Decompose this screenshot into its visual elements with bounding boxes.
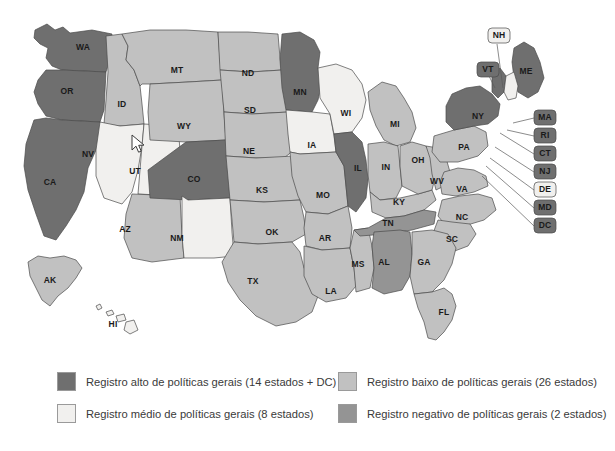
legend-item-baixo: Registro baixo de políticas gerais (26 e… (338, 372, 597, 391)
state-label-me: ME (519, 66, 532, 76)
state-label-wi: WI (341, 108, 352, 118)
legend-swatch-baixo (338, 372, 357, 391)
state-shape-hi[interactable] (96, 304, 102, 310)
state-label-ne: NE (243, 146, 255, 156)
state-label-fl: FL (439, 307, 450, 317)
callout-label-de: DE (539, 184, 551, 194)
state-label-in: IN (382, 162, 391, 172)
callout-label-vt: VT (482, 64, 494, 74)
state-label-sd: SD (244, 105, 256, 115)
callout-nh[interactable]: NH (488, 28, 510, 43)
state-label-mo: MO (316, 190, 330, 200)
callout-nj[interactable]: NJ (534, 164, 556, 179)
state-label-tx: TX (247, 276, 258, 286)
callout-dc[interactable]: DC (534, 218, 556, 233)
callout-label-ma: MA (538, 112, 552, 122)
legend-item-medio: Registro médio de políticas gerais (8 es… (57, 404, 314, 423)
state-shape-ny[interactable] (446, 86, 500, 130)
state-label-ut: UT (129, 166, 141, 176)
state-label-ga: GA (417, 257, 430, 267)
state-shape-nm[interactable] (182, 196, 234, 258)
map-figure: WAORCAIDNVUTAZMTWYCONMNDSDNEKSOKTXMNIAMO… (0, 0, 615, 451)
state-shape-ok[interactable] (230, 200, 306, 244)
state-shape-wa[interactable] (34, 24, 112, 72)
callout-ma[interactable]: MA (534, 110, 556, 125)
state-shape-mn[interactable] (280, 32, 322, 112)
legend-swatch-negativo (338, 404, 357, 423)
state-shape-nd[interactable] (218, 32, 282, 72)
state-label-mi: MI (390, 119, 400, 129)
legend-item-alto: Registro alto de políticas gerais (14 es… (57, 372, 336, 391)
state-label-id: ID (118, 99, 127, 109)
state-label-nv: NV (82, 149, 94, 159)
state-label-co: CO (187, 174, 200, 184)
callout-label-nj: NJ (539, 166, 550, 176)
callout-label-nh: NH (493, 30, 506, 40)
state-label-or: OR (60, 86, 73, 96)
state-label-ok: OK (265, 227, 279, 237)
callout-md[interactable]: MD (534, 200, 556, 215)
callout-label-dc: DC (539, 220, 552, 230)
state-shape-az[interactable] (124, 194, 184, 262)
callout-vt[interactable]: VT (477, 62, 499, 77)
legend-label-medio: Registro médio de políticas gerais (8 es… (86, 408, 314, 420)
state-label-hi: HI (109, 319, 118, 329)
state-label-ca: CA (44, 177, 57, 187)
callout-de[interactable]: DE (534, 182, 556, 197)
leader-line-ct (500, 133, 534, 154)
state-shape-tx[interactable] (222, 242, 318, 326)
state-shape-ne[interactable] (224, 112, 294, 158)
states-layer (24, 24, 544, 340)
state-shape-hi[interactable] (116, 314, 126, 322)
map-legend: Registro alto de políticas gerais (14 es… (0, 358, 615, 451)
callout-ri[interactable]: RI (534, 128, 556, 143)
legend-item-negativo: Registro negativo de políticas gerais (2… (338, 404, 606, 423)
state-label-wa: WA (76, 42, 90, 52)
state-label-sc: SC (446, 234, 458, 244)
state-shape-fl[interactable] (414, 288, 456, 340)
leader-line-ma (513, 118, 534, 123)
state-label-va: VA (456, 184, 468, 194)
legend-label-alto: Registro alto de políticas gerais (14 es… (86, 376, 336, 388)
state-label-mt: MT (171, 65, 184, 75)
state-shape-ca[interactable] (24, 118, 104, 240)
state-label-il: IL (354, 163, 362, 173)
state-shape-hi[interactable] (106, 310, 114, 316)
state-label-pa: PA (458, 142, 470, 152)
map-svg: WAORCAIDNVUTAZMTWYCONMNDSDNEKSOKTXMNIAMO… (0, 0, 615, 352)
us-choropleth-map: WAORCAIDNVUTAZMTWYCONMNDSDNEKSOKTXMNIAMO… (0, 0, 615, 352)
state-label-oh: OH (411, 155, 424, 165)
state-label-wy: WY (177, 121, 191, 131)
state-shape-nv[interactable] (96, 122, 144, 204)
state-label-tn: TN (382, 218, 394, 228)
state-label-ks: KS (256, 185, 268, 195)
state-shape-hi[interactable] (124, 320, 138, 334)
state-label-ar: AR (319, 233, 332, 243)
callout-label-md: MD (538, 202, 552, 212)
state-label-az: AZ (119, 224, 131, 234)
state-label-nm: NM (170, 233, 184, 243)
state-label-nc: NC (456, 212, 469, 222)
state-label-wv: WV (430, 176, 444, 186)
state-label-al: AL (378, 257, 390, 267)
callout-ct[interactable]: CT (534, 146, 556, 161)
state-label-ia: IA (308, 140, 317, 150)
state-label-nd: ND (242, 68, 255, 78)
state-label-mn: MN (293, 87, 307, 97)
state-label-ms: MS (351, 259, 364, 269)
state-shape-wy[interactable] (148, 80, 226, 142)
callout-label-ct: CT (539, 148, 551, 158)
leader-line-de (490, 158, 534, 190)
legend-label-negativo: Registro negativo de políticas gerais (2… (367, 408, 606, 420)
state-label-ak: AK (44, 275, 57, 285)
state-label-ny: NY (472, 111, 484, 121)
legend-swatch-alto (57, 372, 76, 391)
legend-swatch-medio (57, 404, 76, 423)
callout-label-ri: RI (541, 130, 550, 140)
legend-label-baixo: Registro baixo de políticas gerais (26 e… (367, 376, 597, 388)
leader-line-ri (507, 130, 534, 136)
state-label-la: LA (325, 286, 337, 296)
state-label-ky: KY (393, 197, 405, 207)
state-shape-mt[interactable] (122, 30, 222, 86)
state-shape-mi[interactable] (368, 82, 416, 146)
